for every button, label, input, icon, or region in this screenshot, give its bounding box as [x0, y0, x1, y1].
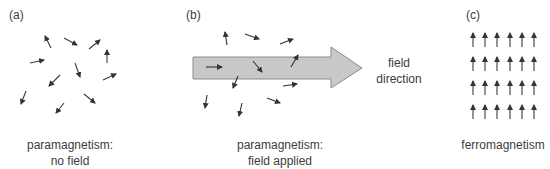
spin-arrow-icon: [239, 103, 242, 116]
panel-b-caption: paramagnetism: field applied: [210, 137, 350, 169]
caption-line: paramagnetism:: [10, 137, 130, 153]
spin-arrow-icon: [225, 32, 227, 45]
spin-arrow-icon: [56, 103, 64, 113]
panel-b-label: (b): [186, 8, 201, 22]
field-direction-label: field direction: [364, 55, 434, 87]
spin-arrow-icon: [84, 94, 95, 103]
caption-line: direction: [364, 71, 434, 87]
spin-arrow-icon: [205, 95, 207, 108]
spin-arrow-icon: [49, 75, 60, 86]
caption-line: ferromagnetism: [453, 137, 550, 153]
caption-line: no field: [10, 153, 130, 169]
spin-arrow-icon: [89, 40, 100, 49]
spin-arrow-icon: [75, 63, 80, 77]
spin-arrow-icon: [103, 74, 116, 80]
panel-a-label: (a): [9, 8, 24, 22]
caption-line: field: [364, 55, 434, 71]
panel-c-caption: ferromagnetism: [453, 137, 550, 153]
spin-arrow-icon: [45, 36, 51, 48]
spin-arrow-icon: [283, 84, 297, 86]
spin-arrow-icon: [64, 38, 77, 45]
spin-arrow-icon: [30, 60, 44, 63]
panel-c-spins: [473, 33, 534, 119]
spin-arrow-icon: [280, 39, 293, 44]
spin-arrow-icon: [21, 91, 26, 104]
spin-arrow-icon: [267, 98, 280, 103]
caption-line: paramagnetism:: [210, 137, 350, 153]
panel-c-label: (c): [466, 8, 480, 22]
panel-a-spins: [21, 36, 116, 113]
spin-arrow-icon: [245, 34, 259, 39]
panel-a-caption: paramagnetism: no field: [10, 137, 130, 169]
caption-line: field applied: [210, 153, 350, 169]
